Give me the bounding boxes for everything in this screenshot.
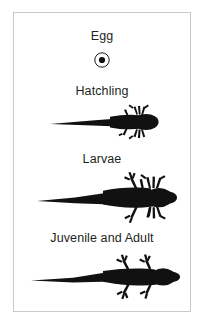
life-cycle-stage-hatchling: Hatchling [14, 84, 190, 142]
life-cycle-stage-egg: Egg [14, 29, 190, 71]
stage-art-egg [14, 49, 190, 71]
stage-label-larvae: Larvae [14, 152, 190, 166]
life-cycle-figure-frame: Egg Hatchling [13, 12, 191, 312]
hatchling-silhouette-icon [48, 102, 168, 142]
stage-art-larvae [14, 170, 190, 222]
life-cycle-stage-larvae: Larvae [14, 152, 190, 222]
stage-art-adult [14, 251, 190, 299]
stage-label-hatchling: Hatchling [14, 84, 190, 98]
stage-label-adult: Juvenile and Adult [14, 231, 190, 245]
larvae-silhouette-icon [35, 170, 185, 222]
egg-circle-icon [91, 49, 113, 71]
stage-art-hatchling [14, 102, 190, 142]
adult-silhouette-icon [29, 251, 189, 299]
life-cycle-stage-adult: Juvenile and Adult [14, 231, 190, 299]
stage-label-egg: Egg [14, 29, 190, 43]
